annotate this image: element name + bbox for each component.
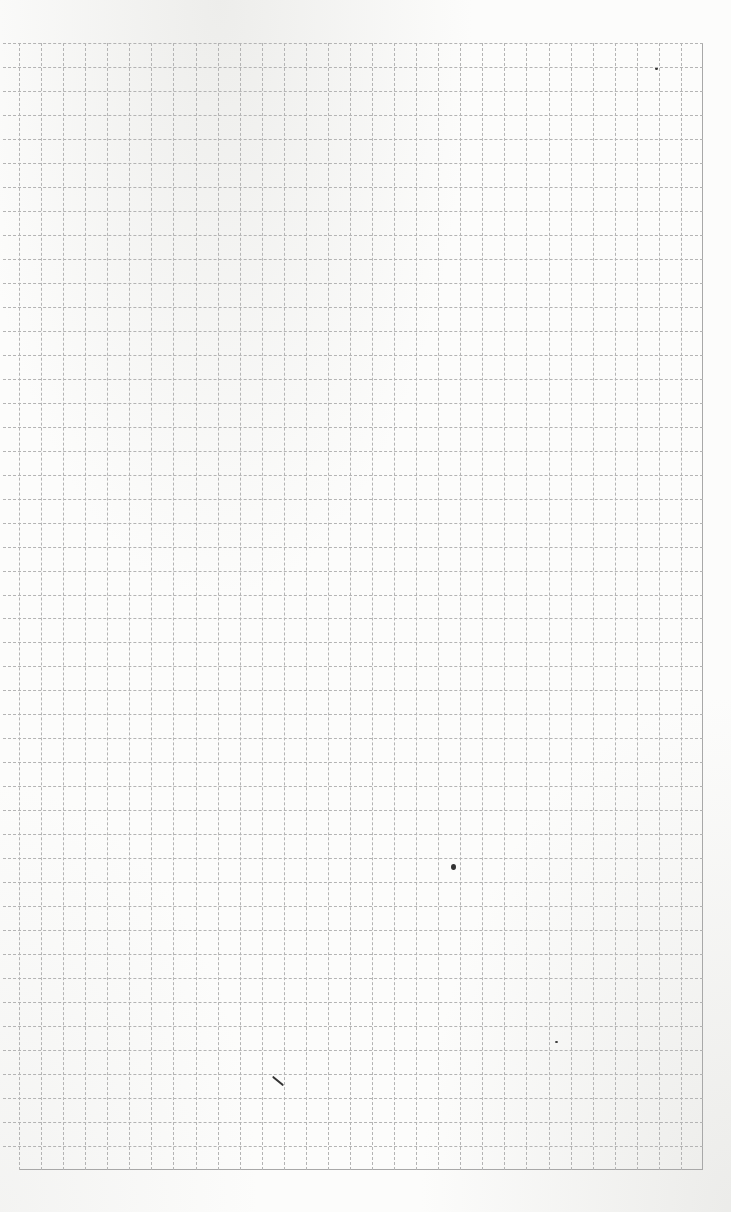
grid-line-vertical: [637, 43, 638, 1170]
grid-line-vertical: [284, 43, 285, 1170]
grid-line-vertical: [306, 43, 307, 1170]
grid-line-vertical: [526, 43, 527, 1170]
grid-line-vertical: [41, 43, 42, 1170]
grid-line-vertical: [173, 43, 174, 1170]
grid-line-vertical: [615, 43, 616, 1170]
grid-line-vertical: [218, 43, 219, 1170]
grid-line-vertical: [394, 43, 395, 1170]
grid-line-vertical: [85, 43, 86, 1170]
grid-line-vertical: [328, 43, 329, 1170]
grid-line-vertical: [659, 43, 660, 1170]
grid-line-vertical: [504, 43, 505, 1170]
grid-line-vertical: [460, 43, 461, 1170]
grid-line-vertical: [107, 43, 108, 1170]
grid-line-vertical: [571, 43, 572, 1170]
grid-line-vertical: [549, 43, 550, 1170]
speck-lower-right: [555, 1041, 558, 1043]
grid-line-vertical: [262, 43, 263, 1170]
grid-line-vertical: [151, 43, 152, 1170]
grid-line-vertical: [129, 43, 130, 1170]
grid-line-vertical: [372, 43, 373, 1170]
grid-line-vertical: [438, 43, 439, 1170]
graph-paper-sheet: [0, 0, 731, 1212]
grid-line-vertical: [681, 43, 682, 1170]
grid-area: [19, 43, 703, 1170]
grid-line-vertical: [350, 43, 351, 1170]
grid-line-vertical: [593, 43, 594, 1170]
grid-line-vertical: [416, 43, 417, 1170]
grid-line-vertical: [482, 43, 483, 1170]
blot-center: [451, 864, 456, 870]
grid-line-vertical: [19, 43, 20, 1170]
grid-line-vertical: [240, 43, 241, 1170]
grid-line-vertical: [196, 43, 197, 1170]
grid-line-vertical: [63, 43, 64, 1170]
